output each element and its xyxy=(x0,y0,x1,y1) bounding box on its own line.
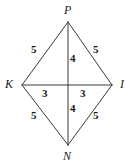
rhombus-outline xyxy=(22,22,112,145)
side-PK-line xyxy=(22,22,68,85)
vertex-label-N: N xyxy=(63,150,71,162)
segment-length-center-I: 3 xyxy=(80,88,86,99)
side-length-KN: 5 xyxy=(31,110,37,121)
segment-length-K-center: 3 xyxy=(42,88,48,99)
side-length-NI: 5 xyxy=(93,110,99,121)
geometry-figure: P K I N 5 5 5 5 4 4 3 3 xyxy=(0,0,132,166)
vertex-label-P: P xyxy=(64,4,71,16)
rhombus-diagonals xyxy=(22,22,112,145)
vertex-label-K: K xyxy=(5,78,13,90)
side-NI-line xyxy=(68,85,112,145)
segment-length-center-N: 4 xyxy=(70,103,76,114)
segment-length-P-center: 4 xyxy=(70,53,76,64)
side-length-PK: 5 xyxy=(31,44,37,55)
figure-canvas xyxy=(0,0,132,166)
vertex-label-I: I xyxy=(120,78,124,90)
side-length-PI: 5 xyxy=(93,44,99,55)
